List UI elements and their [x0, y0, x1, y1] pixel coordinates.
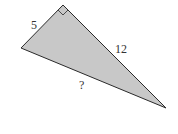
short-leg-label: 5	[31, 18, 37, 32]
hypotenuse-label: ?	[79, 78, 84, 92]
long-leg-label: 12	[115, 42, 127, 56]
right-triangle-diagram: 5 12 ?	[0, 0, 178, 134]
triangle	[21, 5, 166, 108]
